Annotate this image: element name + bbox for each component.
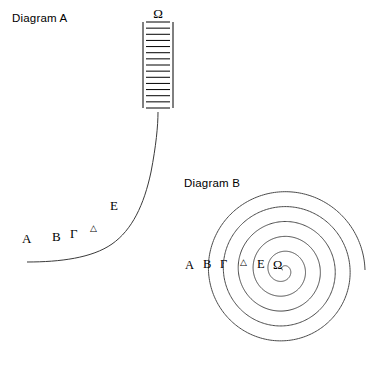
diagram-b-label-E: E: [257, 257, 265, 271]
diagram-b-title: Diagram B: [184, 177, 240, 189]
diagram-b-label-B: B: [203, 257, 211, 271]
diagram-figure: Diagram A A B Γ △ E Ω Diagram B A B Γ △ …: [0, 0, 376, 366]
diagram-b-spiral: [208, 192, 365, 341]
diagram-a-label-E: E: [110, 198, 118, 213]
diagram-a-label-B: B: [52, 229, 61, 244]
diagram-b-label-Omega: Ω: [273, 258, 282, 272]
diagram-a-label-A: A: [22, 231, 32, 246]
diagram-b-label-Gamma: Γ: [220, 257, 227, 271]
figure-canvas: Diagram A A B Γ △ E Ω Diagram B A B Γ △ …: [0, 0, 376, 366]
diagram-b-label-Delta: △: [240, 257, 247, 267]
diagram-b-group: Diagram B A B Γ △ E Ω: [184, 177, 365, 341]
diagram-a-curve: [27, 112, 158, 262]
diagram-a-label-Omega: Ω: [153, 6, 163, 21]
ladder-group: [143, 22, 173, 108]
diagram-b-label-A: A: [185, 258, 194, 272]
diagram-a-label-Gamma: Γ: [70, 226, 78, 241]
diagram-a-title: Diagram A: [12, 12, 68, 24]
diagram-a-group: Diagram A A B Γ △ E Ω: [12, 6, 173, 262]
diagram-a-label-Delta: △: [90, 223, 97, 233]
